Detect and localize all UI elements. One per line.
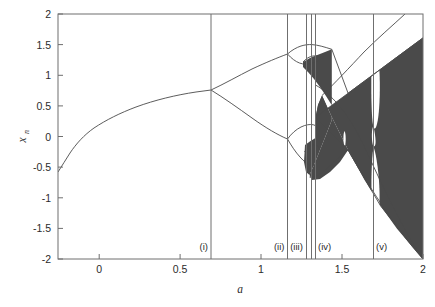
y-tick-label: -2 (42, 253, 51, 265)
marker-label-v: (v) (376, 241, 387, 252)
marker-label-iii: (iii) (290, 241, 303, 252)
y-tick-label: 1 (45, 69, 51, 81)
x-axis-title: a (237, 283, 243, 295)
y-tick-label: 2 (45, 8, 51, 20)
x-tick-label: 0.5 (173, 263, 188, 275)
marker-label-ii: (ii) (274, 241, 285, 252)
y-tick-label: 1.5 (36, 39, 51, 51)
y-tick-label: -1 (42, 192, 51, 204)
x-tick-label: 1 (258, 263, 264, 275)
y-tick-label: -1.5 (33, 222, 51, 234)
bifurcation-figure: 2 1.5 1 0.5 0 -0.5 -1 -1.5 -2 0 0.5 1 1.… (0, 0, 435, 307)
x-tick-label: 2 (420, 263, 426, 275)
y-axis-title-base: x (16, 137, 28, 144)
x-tick-label: 0 (96, 263, 102, 275)
y-tick-label: 0 (45, 131, 51, 143)
bifurcation-plot-svg: 2 1.5 1 0.5 0 -0.5 -1 -1.5 -2 0 0.5 1 1.… (0, 0, 435, 307)
marker-label-iv: (iv) (318, 241, 331, 252)
y-tick-label: 0.5 (36, 100, 51, 112)
y-tick-label: -0.5 (33, 161, 51, 173)
y-axis-title-subscript: n (22, 130, 31, 134)
marker-label-i: (i) (200, 241, 208, 252)
x-tick-label: 1.5 (335, 263, 350, 275)
